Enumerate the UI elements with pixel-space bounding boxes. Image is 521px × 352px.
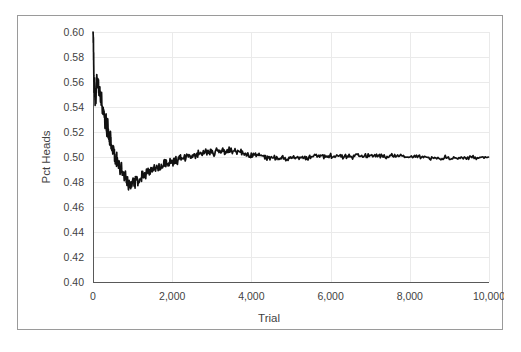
- series-line: [93, 32, 488, 190]
- x-tick-label: 2,000: [159, 290, 185, 302]
- x-tick-label: 0: [90, 290, 96, 302]
- y-tick-label: 0.56: [64, 76, 85, 88]
- x-axis-title: Trial: [258, 312, 280, 324]
- y-tick-label: 0.44: [64, 226, 85, 238]
- y-tick-label: 0.40: [64, 276, 85, 288]
- series-layer: [93, 32, 488, 190]
- y-tick-label: 0.54: [64, 101, 85, 113]
- x-tick-label: 10,000: [473, 290, 504, 302]
- x-tick-label: 4,000: [238, 290, 264, 302]
- x-tick-label: 8,000: [397, 290, 423, 302]
- y-tick-label: 0.50: [64, 151, 85, 163]
- y-axis-title: Pct Heads: [40, 130, 52, 183]
- y-tick-label: 0.42: [64, 251, 85, 263]
- plot-svg: 0.400.420.440.460.480.500.520.540.560.58…: [18, 16, 504, 331]
- chart-figure: 0.400.420.440.460.480.500.520.540.560.58…: [17, 15, 503, 330]
- x-axis-tick-labels: 02,0004,0006,0008,00010,000: [90, 290, 504, 302]
- x-tick-label: 6,000: [317, 290, 343, 302]
- y-tick-label: 0.58: [64, 51, 85, 63]
- plot-canvas: 0.400.420.440.460.480.500.520.540.560.58…: [18, 16, 504, 331]
- y-tick-label: 0.52: [64, 126, 85, 138]
- y-tick-label: 0.60: [64, 26, 85, 38]
- y-tick-label: 0.46: [64, 201, 85, 213]
- y-axis-tick-labels: 0.400.420.440.460.480.500.520.540.560.58…: [64, 26, 85, 288]
- y-tick-label: 0.48: [64, 176, 85, 188]
